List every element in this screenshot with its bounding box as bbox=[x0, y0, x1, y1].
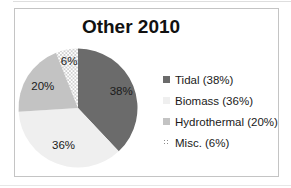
legend-marker-tidal-icon bbox=[163, 76, 170, 83]
legend-item-biomass: Biomass (36%) bbox=[163, 90, 278, 111]
chart-frame: Other 2010 38%36%20%6% Tidal (38%) Bioma… bbox=[14, 8, 279, 177]
legend-marker-biomass-icon bbox=[163, 97, 170, 104]
legend: Tidal (38%) Biomass (36%) Hydrothermal (… bbox=[163, 69, 278, 153]
legend-label-tidal: Tidal (38%) bbox=[175, 74, 233, 86]
top-divider bbox=[13, 1, 291, 2]
legend-item-tidal: Tidal (38%) bbox=[163, 69, 278, 90]
pie-chart: 38%36%20%6% bbox=[15, 45, 141, 171]
chart-image: Other 2010 38%36%20%6% Tidal (38%) Bioma… bbox=[0, 0, 291, 188]
legend-item-hydrothermal: Hydrothermal (20%) bbox=[163, 111, 278, 132]
legend-marker-hydrothermal-icon bbox=[163, 118, 170, 125]
legend-label-misc: Misc. (6%) bbox=[175, 137, 229, 149]
slice-label-biomass: 36% bbox=[52, 139, 75, 151]
chart-title: Other 2010 bbox=[15, 16, 247, 38]
slice-label-hydrothermal: 20% bbox=[31, 80, 54, 92]
slice-label-tidal: 38% bbox=[110, 85, 133, 97]
bottom-divider bbox=[0, 185, 291, 186]
legend-label-hydrothermal: Hydrothermal (20%) bbox=[175, 116, 278, 128]
legend-marker-misc-icon bbox=[163, 139, 170, 146]
legend-label-biomass: Biomass (36%) bbox=[175, 95, 253, 107]
legend-item-misc: Misc. (6%) bbox=[163, 132, 278, 153]
slice-label-misc: 6% bbox=[61, 55, 78, 67]
